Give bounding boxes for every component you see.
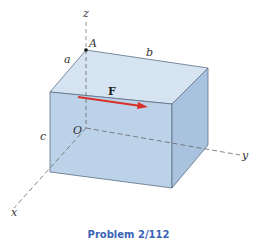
point-a-marker: [84, 48, 88, 52]
dimension-c-label: c: [40, 130, 46, 143]
box-diagram: z y x A O a b c F: [0, 0, 257, 242]
force-label: F: [108, 85, 116, 98]
point-a-label: A: [88, 37, 97, 50]
z-axis-label: z: [82, 7, 89, 20]
x-axis-label: x: [11, 206, 18, 219]
figure-caption: Problem 2/112: [0, 229, 257, 240]
dimension-b-label: b: [146, 46, 153, 59]
y-axis-label: y: [241, 149, 249, 162]
dimension-a-label: a: [64, 53, 71, 66]
origin-label: O: [73, 124, 82, 137]
